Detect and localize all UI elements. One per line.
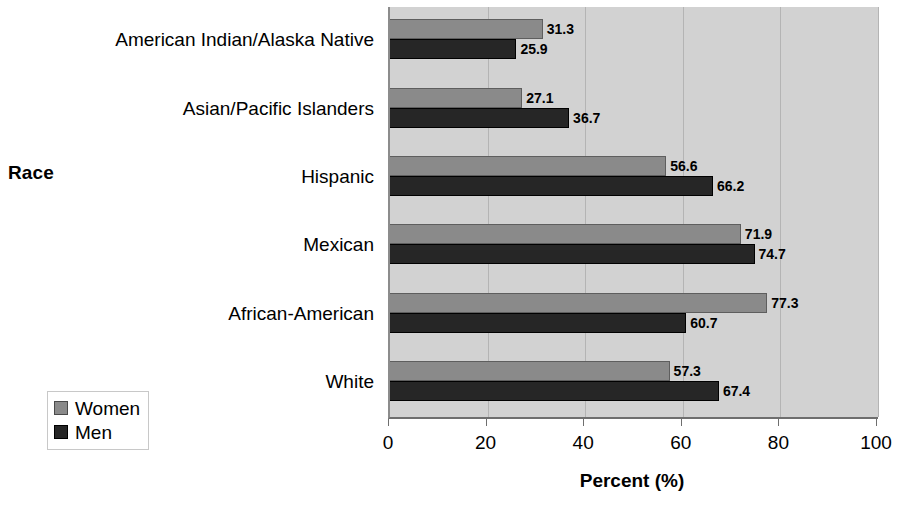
bar-men-0 <box>390 39 516 59</box>
category-label-4: African-American <box>228 303 374 322</box>
category-label-1: Asian/Pacific Islanders <box>183 98 374 117</box>
bar-value-label: 25.9 <box>520 42 547 56</box>
gridline <box>488 7 489 417</box>
bar-men-5 <box>390 381 719 401</box>
x-axis-title: Percent (%) <box>388 470 876 492</box>
x-axis-tick-label: 80 <box>768 432 789 454</box>
x-axis-tick-label: 60 <box>670 432 691 454</box>
x-axis-tick-mark <box>681 419 682 426</box>
category-label-5: White <box>325 371 374 390</box>
legend-item-men: Men <box>54 420 140 444</box>
bar-value-label: 71.9 <box>745 227 772 241</box>
bar-women-4 <box>390 293 767 313</box>
bar-men-4 <box>390 313 686 333</box>
bar-women-2 <box>390 156 666 176</box>
bar-men-2 <box>390 176 713 196</box>
legend-label: Women <box>75 399 140 418</box>
bar-women-1 <box>390 88 522 108</box>
bar-value-label: 27.1 <box>526 91 553 105</box>
bar-value-label: 67.4 <box>723 384 750 398</box>
x-axis-tick-mark <box>388 419 389 426</box>
gridline <box>683 7 684 417</box>
x-axis-tick-label: 20 <box>475 432 496 454</box>
category-label-2: Hispanic <box>301 166 374 185</box>
bar-value-label: 66.2 <box>717 179 744 193</box>
x-axis-tick-mark <box>778 419 779 426</box>
x-axis-tick-mark <box>876 419 877 426</box>
x-axis-tick-label: 0 <box>383 432 394 454</box>
legend-item-women: Women <box>54 396 140 420</box>
y-axis-category-labels: American Indian/Alaska NativeAsian/Pacif… <box>0 7 382 417</box>
bar-value-label: 77.3 <box>771 296 798 310</box>
bar-value-label: 57.3 <box>674 364 701 378</box>
bar-value-label: 36.7 <box>573 111 600 125</box>
legend-swatch-men-icon <box>54 425 68 439</box>
bar-value-label: 60.7 <box>690 316 717 330</box>
bar-women-0 <box>390 19 543 39</box>
gridline <box>585 7 586 417</box>
x-axis-tick-label: 40 <box>573 432 594 454</box>
bar-men-1 <box>390 108 569 128</box>
bar-women-5 <box>390 361 670 381</box>
gridline <box>780 7 781 417</box>
category-label-3: Mexican <box>303 235 374 254</box>
legend-label: Men <box>75 423 112 442</box>
x-axis-tick-mark <box>583 419 584 426</box>
gridline <box>878 7 879 417</box>
bar-women-3 <box>390 224 741 244</box>
bar-value-label: 56.6 <box>670 159 697 173</box>
legend-swatch-women-icon <box>54 401 68 415</box>
x-axis-tick-mark <box>486 419 487 426</box>
chart-legend: WomenMen <box>47 391 149 450</box>
category-label-0: American Indian/Alaska Native <box>115 30 374 49</box>
bar-value-label: 74.7 <box>759 247 786 261</box>
bar-men-3 <box>390 244 755 264</box>
bar-chart-figure: Race American Indian/Alaska NativeAsian/… <box>0 0 901 507</box>
plot-area: 31.325.927.136.756.666.271.974.777.360.7… <box>388 7 878 419</box>
bar-value-label: 31.3 <box>547 22 574 36</box>
x-axis-tick-label: 100 <box>860 432 892 454</box>
